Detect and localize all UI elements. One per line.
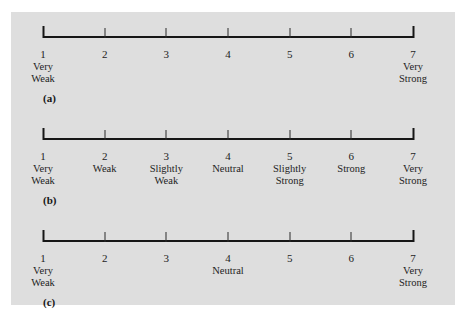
tick-mark-3 [166,232,167,242]
scale-anchor-label: Strong [370,277,456,290]
tick-mark-6 [351,28,352,38]
tick-mark-4 [228,28,229,38]
scale-anchor-label: Very [0,61,86,74]
scale-anchor-label: Very [370,265,456,278]
tick-mark-1 [43,26,45,38]
tick-mark-7 [413,26,415,38]
scale-anchor-label: Very [370,163,456,176]
panel-label: (b) [43,194,56,206]
tick-mark-6 [351,130,352,140]
scale-anchor-label: Neutral [185,265,271,278]
tick-mark-1 [43,128,45,140]
axis-area [43,24,413,50]
scale-anchor-label: Strong [370,175,456,188]
scale-anchor-label: Weak [0,73,86,86]
scale-anchor-label: Weak [0,277,86,290]
tick-mark-4 [228,130,229,140]
tick-mark-1 [43,230,45,242]
tick-mark-7 [413,128,415,140]
tick-mark-2 [104,130,105,140]
tick-mark-2 [104,28,105,38]
tick-mark-5 [289,232,290,242]
scale-point-7[interactable]: 7VeryStrong [370,252,456,290]
tick-mark-3 [166,28,167,38]
figure-panel: 1VeryWeak234567VeryStrong(a)1VeryWeak2We… [11,12,455,305]
scale-anchor-label: Strong [370,73,456,86]
tick-mark-3 [166,130,167,140]
panel-label: (a) [43,92,56,104]
scale-anchor-label: Strong [247,175,333,188]
tick-mark-4 [228,232,229,242]
axis-area [43,126,413,152]
tick-mark-5 [289,130,290,140]
scale-anchor-label: Very [0,265,86,278]
tick-mark-2 [104,232,105,242]
panel-label: (c) [43,296,55,308]
scale-anchor-label: Very [370,61,456,74]
scale-anchor-label: Weak [0,175,86,188]
tick-mark-7 [413,230,415,242]
tick-mark-6 [351,232,352,242]
tick-mark-5 [289,28,290,38]
scale-point-7[interactable]: 7VeryStrong [370,150,456,188]
scale-point-7[interactable]: 7VeryStrong [370,48,456,86]
scale-anchor-label: Weak [123,175,209,188]
axis-area [43,228,413,254]
